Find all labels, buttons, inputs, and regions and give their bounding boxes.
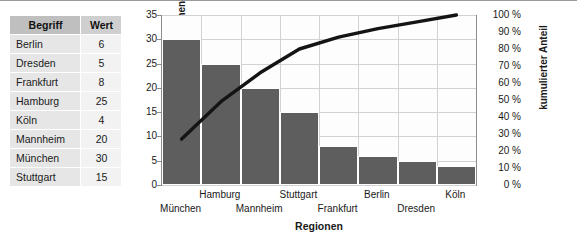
gridline-vertical: [398, 15, 399, 185]
y-axis-right-tick-label: 10 %: [481, 163, 521, 173]
cell-begriff: Hamburg: [10, 92, 81, 111]
data-table-panel: Begriff Wert Berlin6Dresden5Frankfurt8Ha…: [9, 15, 122, 187]
cell-wert: 15: [81, 168, 122, 187]
y-axis-left: 05101520253035: [130, 15, 157, 185]
table-row: Berlin6: [10, 35, 122, 54]
cell-begriff: Köln: [10, 111, 81, 130]
y-axis-left-tick-label: 30: [133, 34, 157, 44]
bar: [319, 146, 358, 185]
y-axis-right-tick-label: 70 %: [481, 61, 521, 71]
y-axis-left-tick-label: 25: [133, 59, 157, 69]
table-row: München30: [10, 149, 122, 168]
pareto-chart-screenshot: Begriff Wert Berlin6Dresden5Frankfurt8Ha…: [0, 0, 577, 240]
y-axis-right-tick-label: 30 %: [481, 129, 521, 139]
y-axis-right-tick-label: 20 %: [481, 146, 521, 156]
cell-begriff: Mannheim: [10, 130, 81, 149]
y-axis-left-tick-label: 20: [133, 83, 157, 93]
cell-begriff: Stuttgart: [10, 168, 81, 187]
y-axis-right-tick-label: 90 %: [481, 27, 521, 37]
table-header-row: Begriff Wert: [10, 16, 122, 35]
table-row: Mannheim20: [10, 130, 122, 149]
x-axis-tick-label: Frankfurt: [298, 203, 377, 214]
cell-wert: 20: [81, 130, 122, 149]
cell-begriff: Frankfurt: [10, 73, 81, 92]
table-body: Berlin6Dresden5Frankfurt8Hamburg25Köln4M…: [10, 35, 122, 187]
bar: [280, 112, 319, 185]
x-axis-tick-label: Dresden: [377, 203, 456, 214]
bar: [437, 166, 476, 185]
data-table: Begriff Wert Berlin6Dresden5Frankfurt8Ha…: [9, 15, 122, 187]
plot-area: [161, 15, 477, 186]
bar: [201, 64, 240, 185]
x-axis-tick-label: Mannheim: [220, 203, 299, 214]
table-row: Köln4: [10, 111, 122, 130]
pareto-chart: Kundenreklamationen 05101520253035 0 %10…: [130, 7, 570, 239]
y-axis-left-tick-label: 15: [133, 107, 157, 117]
cell-wert: 4: [81, 111, 122, 130]
gridline-horizontal: [162, 185, 476, 186]
y-axis-right-tick-label: 80 %: [481, 44, 521, 54]
y-axis-right-tick-label: 100 %: [481, 10, 521, 20]
cell-wert: 6: [81, 35, 122, 54]
cell-wert: 5: [81, 54, 122, 73]
x-axis-tick-label: Berlin: [338, 189, 417, 200]
table-row: Hamburg25: [10, 92, 122, 111]
cell-wert: 8: [81, 73, 122, 92]
cell-wert: 25: [81, 92, 122, 111]
cell-begriff: Berlin: [10, 35, 81, 54]
y-axis-right-tick-label: 60 %: [481, 78, 521, 88]
bar: [162, 39, 201, 185]
bar: [398, 161, 437, 185]
y-axis-left-tick-label: 5: [133, 156, 157, 166]
y-axis-left-tick-label: 35: [133, 10, 157, 20]
table-row: Frankfurt8: [10, 73, 122, 92]
y-axis-right-title: kumulierter Anteil: [538, 13, 549, 123]
y-axis-right-tick-label: 50 %: [481, 95, 521, 105]
x-axis-tick-label: Köln: [416, 189, 495, 200]
bar: [358, 156, 397, 185]
cell-begriff: Dresden: [10, 54, 81, 73]
y-axis-right: 0 %10 %20 %30 %40 %50 %60 %70 %80 %90 %1…: [477, 15, 521, 185]
bar: [241, 88, 280, 185]
x-axis-tick-label: Stuttgart: [259, 189, 338, 200]
table-header: Begriff Wert: [10, 16, 122, 35]
column-header-begriff: Begriff: [10, 16, 81, 35]
x-axis-tick-labels: MünchenHamburgMannheimStuttgartFrankfurt…: [161, 187, 477, 221]
y-axis-left-tick-label: 0: [133, 180, 157, 190]
cell-begriff: München: [10, 149, 81, 168]
x-axis-title: Regionen: [161, 220, 477, 232]
gridline-vertical: [437, 15, 438, 185]
table-row: Dresden5: [10, 54, 122, 73]
cell-wert: 30: [81, 149, 122, 168]
x-axis-tick-label: Hamburg: [181, 189, 260, 200]
table-row: Stuttgart15: [10, 168, 122, 187]
y-axis-right-tick-label: 40 %: [481, 112, 521, 122]
column-header-wert: Wert: [81, 16, 122, 35]
x-axis-tick-label: München: [141, 203, 220, 214]
y-axis-left-tick-label: 10: [133, 131, 157, 141]
